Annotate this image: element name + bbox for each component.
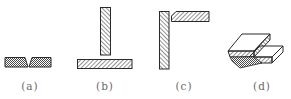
plate-vertical — [160, 12, 170, 70]
caption-d: (d) — [242, 78, 282, 94]
plate-vertical — [101, 8, 111, 56]
plate-horizontal — [78, 60, 133, 69]
caption-b: (b) — [85, 78, 125, 94]
plate-horizontal — [172, 12, 210, 22]
plate-right — [29, 58, 51, 68]
panel-d-lap-joint — [228, 34, 283, 68]
upper-plate-front — [228, 51, 254, 57]
caption-a: (a) — [10, 78, 50, 94]
panel-a-butt-joint — [5, 58, 51, 68]
panel-c-corner-joint — [160, 12, 210, 70]
caption-c: (c) — [164, 78, 204, 94]
plate-left — [5, 58, 28, 68]
panel-b-t-joint — [78, 8, 133, 69]
